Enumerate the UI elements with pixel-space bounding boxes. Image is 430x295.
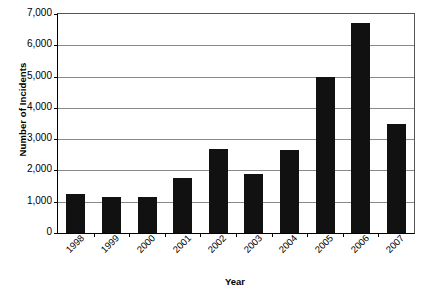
x-axis-tick-label: 2000 — [129, 233, 157, 261]
y-axis-tick-label: 6,000 — [8, 39, 52, 49]
y-axis-tick-mark — [54, 170, 58, 171]
bar — [244, 174, 263, 233]
x-axis-tick-label: 2001 — [164, 233, 192, 261]
x-axis-tick-label: 2006 — [342, 233, 370, 261]
x-axis-tick-label: 1999 — [93, 233, 121, 261]
y-axis-tick-labels: 7,0006,0005,0004,0003,0002,0001,0000 — [4, 0, 52, 295]
y-axis-tick-mark — [54, 202, 58, 203]
bar — [351, 23, 370, 233]
bar — [209, 149, 228, 233]
y-axis-tick-label: 4,000 — [8, 102, 52, 112]
bar — [280, 150, 299, 233]
bar — [66, 194, 85, 233]
x-axis-title: Year — [57, 276, 413, 287]
bar — [387, 124, 406, 234]
x-axis-tick-label: 2002 — [200, 233, 228, 261]
bar — [102, 197, 121, 233]
y-axis-tick-label: 0 — [8, 227, 52, 237]
y-axis-tick-label: 7,000 — [8, 8, 52, 18]
bar — [316, 77, 335, 233]
x-axis-tick-label: 2004 — [271, 233, 299, 261]
y-axis-tick-label: 3,000 — [8, 133, 52, 143]
y-axis-tick-label: 5,000 — [8, 71, 52, 81]
y-axis-tick-label: 1,000 — [8, 196, 52, 206]
x-axis-tick-label: 2007 — [378, 233, 406, 261]
x-axis-tick-label: 1998 — [58, 233, 86, 261]
y-axis-tick-mark — [54, 45, 58, 46]
bar-chart: Number of Incidents 7,0006,0005,0004,000… — [0, 0, 430, 295]
x-axis-tick-labels: 1998199920002001200220032004200520062007 — [57, 233, 413, 273]
x-axis-tick-label: 2003 — [236, 233, 264, 261]
y-axis-tick-mark — [54, 14, 58, 15]
y-axis-tick-mark — [54, 108, 58, 109]
bar — [173, 178, 192, 233]
y-axis-tick-mark — [54, 77, 58, 78]
y-axis-tick-mark — [54, 139, 58, 140]
x-axis-tick-label: 2005 — [307, 233, 335, 261]
y-axis-tick-label: 2,000 — [8, 164, 52, 174]
plot-area — [57, 13, 415, 234]
bar — [138, 197, 157, 233]
